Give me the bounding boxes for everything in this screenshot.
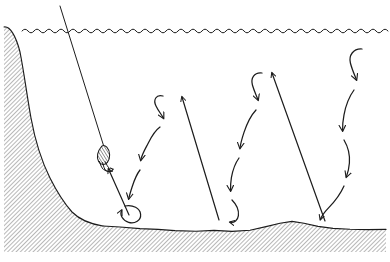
- lift-stroke-arrow-3: [272, 73, 325, 221]
- flutter-fall-arrow-1b: [141, 127, 160, 160]
- bottom-contact-loop-arrow-1: [121, 206, 141, 223]
- diagram-canvas: [0, 0, 390, 262]
- flutter-fall-arrow-3b: [343, 90, 354, 131]
- motion-cycle-2: [182, 73, 262, 222]
- flutter-fall-arrow-1c: [129, 170, 140, 199]
- water-surface-wavy-line: [22, 29, 388, 33]
- lift-stroke-arrow-1: [109, 169, 130, 215]
- line-and-jig-group: [60, 6, 113, 172]
- lift-stroke-arrow-2: [182, 97, 219, 220]
- fishing-line: [60, 6, 104, 147]
- flutter-fall-arrow-3d: [320, 186, 344, 219]
- flutter-fall-arrow-2a: [252, 73, 262, 100]
- motion-cycle-1: [109, 96, 164, 223]
- jigging-technique-diagram: [0, 0, 390, 262]
- water-surface-group: [22, 29, 388, 33]
- flutter-fall-arrow-3a: [350, 49, 362, 80]
- flutter-fall-arrow-2b: [240, 110, 256, 148]
- flutter-fall-arrow-2d: [230, 200, 238, 222]
- flutter-fall-arrow-1a: [155, 96, 164, 118]
- flutter-fall-arrow-3c: [344, 140, 350, 177]
- flutter-fall-arrow-2c: [231, 158, 239, 191]
- motion-cycle-3: [272, 49, 362, 221]
